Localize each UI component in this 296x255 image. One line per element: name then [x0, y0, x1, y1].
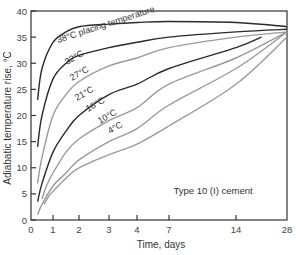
temperature-rise-chart: 0510152025303540 0123471428 38°C placing… [0, 0, 296, 255]
curve-label: 4°C [106, 119, 125, 135]
y-axis: 0510152025303540 [16, 6, 36, 226]
x-tick-label: 14 [231, 224, 242, 235]
x-tick-label: 28 [282, 224, 293, 235]
x-tick-label: 4 [134, 224, 139, 235]
x-tick-label: 3 [106, 224, 111, 235]
y-tick-label: 30 [16, 58, 27, 69]
series-curve [44, 37, 287, 204]
x-axis-title: Time, days [137, 239, 186, 250]
curve-labels: 38°C placing temperature32°C27°C21°C16°C… [56, 4, 156, 136]
y-tick-label: 20 [16, 110, 27, 121]
curve-label: 32°C [63, 48, 86, 67]
cement-type-annotation: Type 10 (I) cement [173, 185, 253, 196]
y-tick-label: 25 [16, 84, 27, 95]
y-tick-label: 35 [16, 32, 27, 43]
curve-label: 38°C placing temperature [56, 4, 156, 45]
y-tick-label: 15 [16, 136, 27, 147]
y-tick-label: 40 [16, 6, 27, 17]
x-axis: 0123471428 [28, 215, 292, 235]
y-tick-label: 10 [16, 162, 27, 173]
x-tick-label: 0 [28, 224, 33, 235]
x-tick-label: 2 [76, 224, 81, 235]
x-tick-label: 1 [50, 224, 55, 235]
curve-label: 27°C [68, 64, 91, 83]
y-tick-label: 5 [22, 188, 27, 199]
x-tick-label: 7 [166, 224, 171, 235]
y-tick-label: 0 [22, 215, 27, 226]
y-axis-title: Adiabatic temperature rise, °C [2, 51, 13, 185]
